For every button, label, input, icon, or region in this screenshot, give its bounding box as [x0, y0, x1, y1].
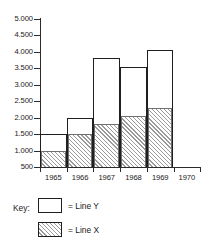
key-label-line-x: = Line X [68, 225, 99, 235]
x-axis-tick-label: 1966 [66, 173, 94, 182]
y-axis-tick [34, 101, 40, 102]
x-axis-tick-label: 1965 [39, 173, 67, 182]
y-axis-tick [34, 85, 40, 86]
y-axis-tick-label-wrap: 500 [0, 163, 33, 171]
y-axis-tick-label-wrap: 1.000 [0, 147, 33, 155]
bar-segment-line-x-1967 [94, 124, 119, 167]
x-axis-tick-label: 1968 [119, 173, 147, 182]
x-axis-tick [67, 167, 68, 172]
bar-chart-figure: 5.0004.5004.0003.5003.0002.5002.0001.500… [0, 0, 219, 250]
key-label-line-y: = Line Y [68, 201, 99, 211]
key-title: Key: [13, 203, 30, 213]
bar-segment-line-x-1969 [148, 108, 173, 167]
x-axis-tick [147, 167, 148, 172]
y-axis-tick-label: 2.500 [1, 97, 33, 105]
key-swatch-line-y [38, 198, 62, 213]
y-axis-tick-label: 5.000 [1, 15, 33, 23]
y-axis-tick [34, 68, 40, 69]
y-axis-tick-label-wrap: 4.000 [0, 48, 33, 56]
x-axis-tick-label: 1969 [146, 173, 174, 182]
bar-segment-line-x-1965 [41, 151, 66, 167]
x-axis-tick [93, 167, 94, 172]
y-axis-tick-label-wrap: 4.500 [0, 31, 33, 39]
y-axis-tick [34, 118, 40, 119]
x-axis-tick-label: 1967 [93, 173, 121, 182]
y-axis-tick-label: 3.000 [1, 81, 33, 89]
y-axis-tick-label: 4.500 [1, 31, 33, 39]
bar-segment-line-x-1968 [121, 116, 146, 167]
y-axis-tick-label: 1.500 [1, 130, 33, 138]
y-axis-tick-label: 4.000 [1, 48, 33, 56]
y-axis-tick [34, 35, 40, 36]
y-axis-tick-label-wrap: 3.500 [0, 64, 33, 72]
y-axis-tick-label-wrap: 2.000 [0, 114, 33, 122]
x-axis-tick [200, 167, 201, 172]
y-axis-tick-label: 2.000 [1, 114, 33, 122]
y-axis-tick-label: 3.500 [1, 64, 33, 72]
key-swatch-line-x [38, 222, 62, 237]
chart-key: Key: = Line Y = Line X [0, 196, 219, 250]
y-axis-tick [34, 19, 40, 20]
y-axis-tick-label: 1.000 [1, 147, 33, 155]
y-axis-tick [34, 52, 40, 53]
y-axis-tick-label: 500 [1, 163, 33, 171]
x-axis-tick [40, 167, 41, 172]
x-axis-tick [120, 167, 121, 172]
y-axis-tick-label-wrap: 1.500 [0, 130, 33, 138]
bar-segment-line-x-1966 [68, 134, 93, 167]
x-axis-tick [174, 167, 175, 172]
x-axis-tick-label: 1970 [173, 173, 201, 182]
y-axis-tick-label-wrap: 3.000 [0, 81, 33, 89]
y-axis-tick-label-wrap: 5.000 [0, 15, 33, 23]
y-axis-tick-label-wrap: 2.500 [0, 97, 33, 105]
